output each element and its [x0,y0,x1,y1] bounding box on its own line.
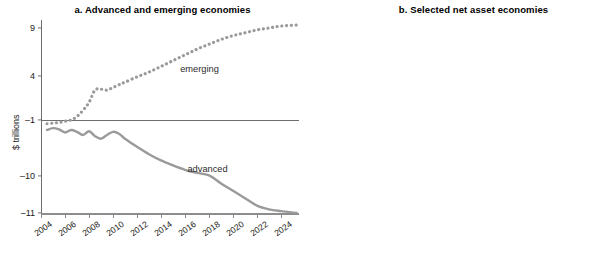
panel-a-x-tick: 2020 [224,219,245,238]
panel-a-x-tick-mark [185,214,186,218]
panel-a-x-tick-mark [89,214,90,218]
panel-a-x-tick-mark [161,214,162,218]
panel-b-net-asset-economies: b. Selected net asset economies $ trilli… [307,0,614,256]
panel-a-x-tick-mark [257,214,258,218]
panel-a-x-tick: 2004 [32,219,53,238]
figure-two-panel-chart: a. Advanced and emerging economies $ tri… [0,0,614,256]
panel-a-y-axis-label: $ trillions [11,114,21,150]
panel-a-x-tick-mark [41,214,42,218]
panel-a-x-tick: 2010 [104,219,125,238]
panel-a-x-tick: 2008 [80,219,101,238]
panel-a-x-tick-mark [209,214,210,218]
panel-a-plot-area: emerging advanced 94–1–10–11200420062008… [41,20,299,215]
panel-a-series-group [41,20,299,215]
panel-a-x-tick: 2018 [200,219,221,238]
panel-a-x-tick: 2014 [152,219,173,238]
panel-a-x-tick-mark [65,214,66,218]
panel-a-y-tick-mark [38,75,42,76]
panel-a-series-emerging [47,25,297,124]
panel-a-x-tick-mark [113,214,114,218]
panel-a-x-tick: 2022 [248,219,269,238]
panel-a-title: a. Advanced and emerging economies [0,4,307,15]
panel-a-x-tick: 2024 [272,219,293,238]
panel-a-x-tick-mark [281,214,282,218]
panel-a-x-tick: 2016 [176,219,197,238]
panel-a-x-tick: 2006 [56,219,77,238]
panel-a-series-advanced [47,128,297,213]
panel-a-x-tick-mark [233,214,234,218]
panel-a-y-tick-mark [38,175,42,176]
panel-a-label-advanced: advanced [187,164,227,174]
panel-a-x-tick: 2012 [128,219,149,238]
panel-a-label-emerging: emerging [180,64,219,74]
panel-a-y-tick-mark [38,27,42,28]
panel-a-y-tick-mark [38,119,42,120]
panel-a-x-tick-mark [137,214,138,218]
panel-b-title: b. Selected net asset economies [307,4,614,15]
panel-a-advanced-emerging: a. Advanced and emerging economies $ tri… [0,0,307,256]
